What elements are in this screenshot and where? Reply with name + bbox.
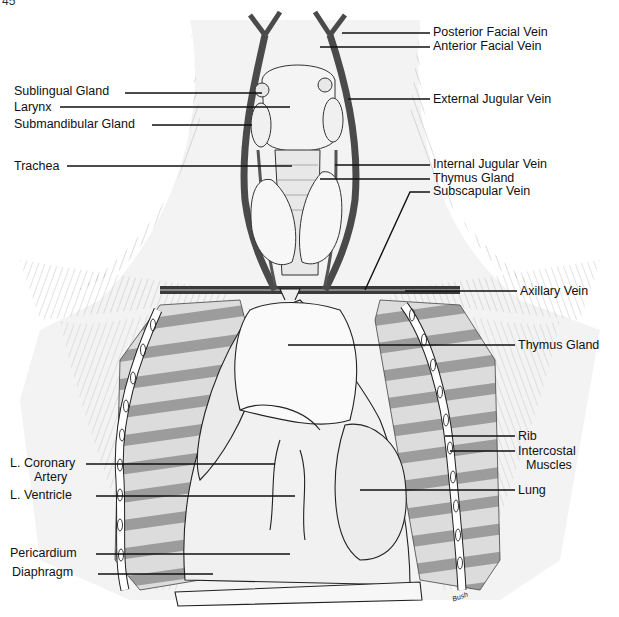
label-submandibular-gland: Submandibular Gland xyxy=(14,118,135,131)
label-pericardium: Pericardium xyxy=(10,547,77,560)
label-thymus-gland-lower: Thymus Gland xyxy=(518,339,599,352)
label-intercostal-muscles-line2: Muscles xyxy=(526,459,572,472)
label-diaphragm: Diaphragm xyxy=(12,566,73,579)
label-larynx: Larynx xyxy=(14,101,52,114)
label-trachea: Trachea xyxy=(14,160,59,173)
label-intercostal-muscles: Intercostal xyxy=(518,445,576,458)
label-l-ventricle: L. Ventricle xyxy=(10,489,72,502)
label-axillary-vein: Axillary Vein xyxy=(520,285,588,298)
label-anterior-facial-vein: Anterior Facial Vein xyxy=(433,40,541,53)
label-internal-jugular-vein: Internal Jugular Vein xyxy=(433,158,547,171)
axillary-vein-shape xyxy=(160,286,460,294)
label-external-jugular-vein: External Jugular Vein xyxy=(433,93,551,106)
label-subscapular-vein: Subscapular Vein xyxy=(433,185,530,198)
label-posterior-facial-vein: Posterior Facial Vein xyxy=(433,26,548,39)
figure-number: 45 xyxy=(2,0,15,8)
label-l-coronary-artery: L. Coronary xyxy=(10,457,75,470)
label-sublingual-gland: Sublingual Gland xyxy=(14,85,109,98)
label-l-coronary-artery-line2: Artery xyxy=(34,471,67,484)
label-lung: Lung xyxy=(518,484,546,497)
label-rib: Rib xyxy=(518,430,537,443)
